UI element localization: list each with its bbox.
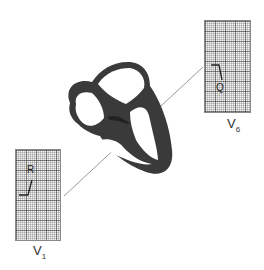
- lead-subscript: 1: [42, 252, 46, 261]
- lead-subscript: 6: [236, 125, 240, 134]
- r-wave-label: R: [27, 164, 34, 175]
- lead-label-v1: V1: [33, 243, 46, 261]
- lead-label-v6: V6: [227, 116, 240, 134]
- q-wave-label: Q: [216, 82, 224, 93]
- lead-letter: V: [33, 243, 42, 258]
- trace-layer: [0, 0, 264, 270]
- lead-letter: V: [227, 116, 236, 131]
